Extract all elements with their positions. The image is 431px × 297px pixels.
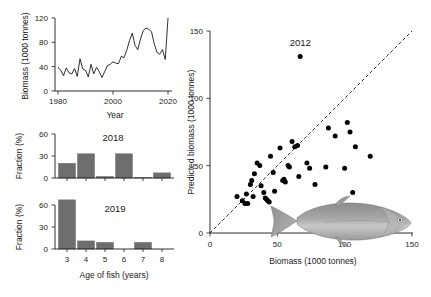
bar-age-7 (135, 242, 152, 249)
hist-xtick-8: 8 (160, 255, 165, 264)
hist2018-title: 2018 (102, 132, 123, 143)
one-to-one-reference-line (210, 31, 412, 233)
panel-age-composition-2019: 60 30 0 3 4 5 (0, 196, 185, 297)
scatter-point (342, 166, 347, 171)
scatter-point (287, 164, 292, 169)
scatter-point (249, 178, 254, 183)
scatter-xtick-50: 50 (273, 240, 282, 249)
timeseries-ytick-0: 0 (44, 87, 49, 96)
timeseries-y-axis: 120 80 40 0 (35, 14, 55, 96)
timeseries-yaxis-title: Biomass (1000 tonnes) (20, 12, 30, 100)
scatter-point (267, 200, 272, 205)
scatter-point (304, 160, 309, 165)
bar-age-3 (59, 200, 76, 249)
hist-xtick-6: 6 (122, 255, 127, 264)
hist2018-ytick-60: 60 (39, 130, 48, 139)
hist2018-yaxis-title: Fraction (%) (14, 133, 24, 179)
scatter-point (353, 144, 358, 149)
scatter-point (333, 134, 338, 139)
scatter-point (268, 154, 273, 159)
scatter-point (252, 171, 257, 176)
bar-age-6 (116, 154, 133, 178)
timeseries-xtick-1980: 1980 (49, 97, 67, 106)
hist-xtick-3: 3 (65, 255, 70, 264)
scatter-point (295, 143, 300, 148)
hist2019-y-axis: 60 30 0 (39, 201, 55, 254)
bar-age-4 (78, 241, 95, 249)
timeseries-ytick-80: 80 (39, 38, 48, 47)
hist2019-ytick-60: 60 (39, 201, 48, 210)
scatter-point (261, 190, 266, 195)
scatter-point (257, 163, 262, 168)
biomass-timeseries-chart: 120 80 40 0 1980 2000 2020 Year Biomass … (0, 0, 185, 125)
hist2019-yaxis-title: Fraction (%) (14, 204, 24, 250)
scatter-point (251, 194, 256, 199)
scatter-point (283, 179, 288, 184)
hist-xaxis-title: Age of fish (years) (80, 270, 149, 280)
hist2018-x-axis (55, 178, 174, 181)
scatter-point (307, 166, 312, 171)
scatter-point-2012 (298, 54, 303, 59)
scatter-point (245, 201, 250, 206)
scatter-point (272, 189, 277, 194)
scatter-point (296, 174, 301, 179)
scatter-point (345, 120, 350, 125)
age-composition-2018-chart: 60 30 0 2018 Fractio (0, 128, 185, 198)
panel-biomass-timeseries: 120 80 40 0 1980 2000 2020 Year Biomass … (0, 0, 185, 125)
hist2018-bars (59, 154, 171, 178)
scatter-point (368, 154, 373, 159)
timeseries-ytick-40: 40 (39, 63, 48, 72)
scatter-yaxis-title: Predicted biomass (1000 tonnes) (186, 69, 196, 194)
multi-panel-figure: 120 80 40 0 1980 2000 2020 Year Biomass … (0, 0, 431, 297)
scatter-point (290, 139, 295, 144)
hist2019-x-axis: 3 4 5 6 7 8 (55, 249, 174, 264)
timeseries-xaxis-title: Year (106, 110, 123, 120)
scatter-annotation-2012: 2012 (290, 37, 311, 48)
scatter-point (271, 170, 276, 175)
biomass-series-line (58, 18, 168, 77)
hist-xtick-7: 7 (141, 255, 146, 264)
scatter-point (235, 194, 240, 199)
bar-age-5 (97, 242, 114, 249)
scatter-points (235, 54, 373, 206)
scatter-xtick-0: 0 (208, 240, 213, 249)
panel-age-composition-2018: 60 30 0 2018 Fractio (0, 128, 185, 198)
bar-age-3 (59, 163, 76, 178)
hist-xtick-5: 5 (103, 255, 108, 264)
timeseries-x-axis: 1980 2000 2020 (49, 91, 177, 106)
scatter-ytick-150: 150 (190, 27, 204, 36)
scatter-point (259, 183, 264, 188)
scatter-xaxis-title: Biomass (1000 tonnes) (269, 256, 357, 266)
scatter-point (244, 191, 249, 196)
hist2018-ytick-0: 0 (44, 174, 49, 183)
hist-xtick-4: 4 (84, 255, 89, 264)
timeseries-xtick-2020: 2020 (159, 97, 177, 106)
scatter-point (278, 146, 283, 151)
bar-age-8 (154, 173, 171, 178)
scatter-ytick-0: 0 (199, 229, 204, 238)
scatter-point (323, 164, 328, 169)
scatter-xtick-150: 150 (405, 240, 419, 249)
scatter-point (326, 125, 331, 130)
scatter-point (348, 130, 353, 135)
bar-age-4 (78, 154, 95, 178)
hist2018-y-axis: 60 30 0 (39, 130, 55, 183)
scatter-point (313, 182, 318, 187)
hist2019-ytick-30: 30 (39, 223, 48, 232)
age-composition-2019-chart: 60 30 0 3 4 5 (0, 196, 185, 297)
scatter-point (350, 190, 355, 195)
hist2019-ytick-0: 0 (44, 245, 49, 254)
hist2018-ytick-30: 30 (39, 152, 48, 161)
timeseries-ytick-120: 120 (35, 14, 49, 23)
timeseries-xtick-2000: 2000 (104, 97, 122, 106)
predicted-vs-observed-chart: 150 100 50 0 0 50 100 150 (185, 0, 431, 297)
hist2019-title: 2019 (104, 203, 125, 214)
panel-predicted-vs-observed: 150 100 50 0 0 50 100 150 (185, 0, 431, 297)
fish-illustration (271, 196, 411, 247)
